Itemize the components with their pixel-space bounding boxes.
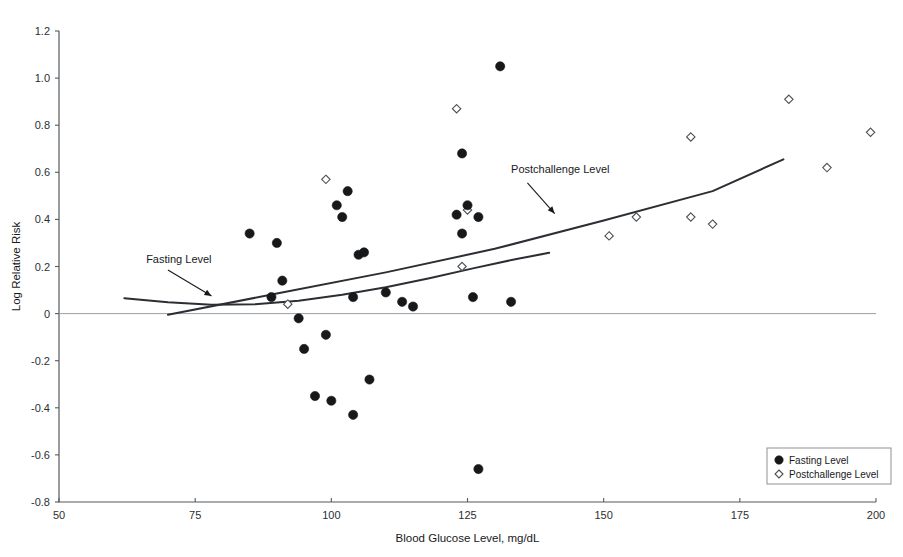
annotation-label: Fasting Level <box>146 253 211 265</box>
legend-label: Postchallenge Level <box>789 469 879 480</box>
data-point-fasting <box>474 212 483 221</box>
legend: Fasting LevelPostchallenge Level <box>767 448 891 484</box>
x-tick-label: 150 <box>594 509 612 521</box>
y-axis-title: Log Relative Risk <box>10 222 22 312</box>
annotation-label: Postchallenge Level <box>511 163 609 175</box>
data-point-fasting <box>343 187 352 196</box>
data-point-postchallenge <box>322 175 330 183</box>
data-point-postchallenge <box>823 163 831 171</box>
data-point-fasting <box>457 149 466 158</box>
y-axis-tick-labels: -0.8-0.6-0.4-0.200.20.40.60.81.01.2 <box>31 25 50 508</box>
y-tick-label: 1.0 <box>35 72 50 84</box>
y-tick-label: 0 <box>44 308 50 320</box>
data-point-fasting <box>398 297 407 306</box>
data-point-fasting <box>463 201 472 210</box>
axes <box>59 31 876 502</box>
data-point-fasting <box>245 229 254 238</box>
data-point-fasting <box>365 375 374 384</box>
curve-annotations: Fasting LevelPostchallenge Level <box>146 163 609 295</box>
y-tick-label: -0.2 <box>31 355 50 367</box>
data-point-fasting <box>408 302 417 311</box>
scatter-chart: -0.8-0.6-0.4-0.200.20.40.60.81.01.2 5075… <box>0 0 903 557</box>
axis-lines <box>59 31 876 502</box>
data-point-fasting <box>332 201 341 210</box>
x-axis-tick-labels: 5075100125150175200 <box>53 509 885 521</box>
data-point-fasting <box>327 396 336 405</box>
x-tick-label: 50 <box>53 509 65 521</box>
data-point-postchallenge <box>785 95 793 103</box>
x-axis-title: Blood Glucose Level, mg/dL <box>396 532 540 544</box>
data-point-fasting <box>452 210 461 219</box>
legend-marker-fasting <box>775 456 783 464</box>
x-tick-label: 75 <box>189 509 201 521</box>
y-tick-label: 0.6 <box>35 166 50 178</box>
x-tick-label: 200 <box>867 509 885 521</box>
data-point-postchallenge <box>452 105 460 113</box>
data-point-fasting <box>468 293 477 302</box>
data-point-fasting <box>278 276 287 285</box>
data-point-fasting <box>338 212 347 221</box>
annotation-arrow <box>168 270 212 296</box>
legend-label: Fasting Level <box>789 455 848 466</box>
fitted-curves <box>124 159 783 314</box>
data-point-postchallenge <box>708 220 716 228</box>
y-tick-label: -0.6 <box>31 449 50 461</box>
postchallenge-data-points <box>284 95 875 308</box>
data-point-fasting <box>300 344 309 353</box>
x-tick-label: 100 <box>322 509 340 521</box>
data-point-fasting <box>294 314 303 323</box>
data-point-fasting <box>506 297 515 306</box>
data-point-fasting <box>321 330 330 339</box>
data-point-postchallenge <box>687 213 695 221</box>
x-tick-label: 125 <box>458 509 476 521</box>
plot-canvas: -0.8-0.6-0.4-0.200.20.40.60.81.01.2 5075… <box>0 0 903 557</box>
y-tick-label: -0.4 <box>31 402 50 414</box>
data-point-fasting <box>267 293 276 302</box>
data-point-postchallenge <box>632 213 640 221</box>
data-point-fasting <box>310 391 319 400</box>
data-point-fasting <box>474 464 483 473</box>
data-point-fasting <box>272 238 281 247</box>
data-point-fasting <box>381 288 390 297</box>
fit-curve-postchallenge-level <box>168 159 783 314</box>
data-point-fasting <box>349 410 358 419</box>
annotation-arrowhead <box>204 290 212 296</box>
data-point-postchallenge <box>605 232 613 240</box>
data-point-fasting <box>457 229 466 238</box>
data-point-fasting <box>359 248 368 257</box>
y-tick-label: 1.2 <box>35 25 50 37</box>
data-point-postchallenge <box>687 133 695 141</box>
y-tick-label: 0.8 <box>35 119 50 131</box>
y-tick-label: -0.8 <box>31 496 50 508</box>
data-point-postchallenge <box>866 128 874 136</box>
y-tick-label: 0.2 <box>35 261 50 273</box>
data-point-fasting <box>349 293 358 302</box>
y-tick-label: 0.4 <box>35 213 50 225</box>
data-point-fasting <box>496 62 505 71</box>
x-tick-label: 175 <box>731 509 749 521</box>
